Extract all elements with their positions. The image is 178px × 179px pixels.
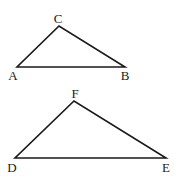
vertex-label-c: C [54,11,63,26]
triangle-def-outline [15,101,166,158]
triangle-abc: A B C [8,11,129,83]
vertex-label-f: F [71,86,78,101]
similar-triangles-diagram: A B C D E F [0,0,178,179]
vertex-label-e: E [162,160,170,175]
vertex-label-a: A [8,68,18,83]
triangle-abc-outline [17,26,125,67]
vertex-label-b: B [121,68,130,83]
vertex-label-d: D [7,160,16,175]
triangle-def: D E F [7,86,170,175]
